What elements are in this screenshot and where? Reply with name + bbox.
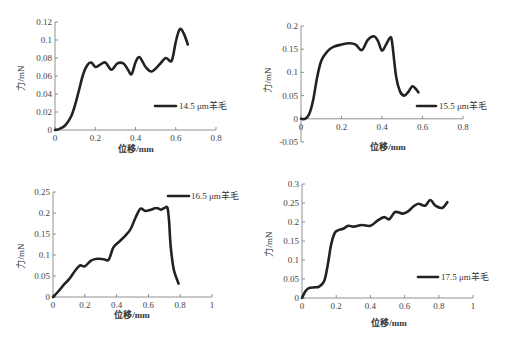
y-tick-label: 0.25: [283, 198, 299, 208]
x-tick-label: 1: [210, 300, 215, 310]
chart-br: 00.050.10.150.20.250.300.20.40.60.81 17.…: [263, 179, 489, 328]
x-tick-label: 0: [300, 301, 305, 311]
y-tick-label: 0.15: [282, 44, 298, 54]
x-tick-label: 0.2: [79, 300, 90, 310]
y-tick-label: 0.1: [41, 35, 52, 45]
y-tick-label: 0.1: [287, 67, 298, 77]
y-tick-label: 0.08: [36, 53, 52, 63]
y-tick-label: 0.05: [283, 274, 299, 284]
y-tick-label: 0.25: [34, 187, 50, 197]
chart-tr-ylabel: 力/mN: [262, 67, 273, 93]
x-tick-label: 0.2: [331, 301, 342, 311]
chart-tr: -0.0500.050.10.150.200.20.40.60.8 15.5 μ…: [262, 21, 487, 152]
y-tick-label: 0.05: [282, 91, 298, 101]
x-tick-label: 0.8: [457, 122, 469, 132]
y-tick-label: 0.05: [34, 271, 50, 281]
x-tick-label: 0: [299, 122, 304, 132]
y-tick-label: -0.05: [279, 137, 298, 147]
chart-tr-axes: -0.0500.050.10.150.200.20.40.60.8: [279, 21, 469, 147]
x-tick-label: 0.6: [143, 300, 155, 310]
chart-bl-legend-label: 16.5 μm羊毛: [191, 190, 239, 201]
chart-bl-axes: 00.050.10.150.20.2500.20.40.60.81: [34, 187, 214, 310]
y-tick-label: 0.2: [39, 208, 50, 218]
chart-bl-xlabel: 位移/mm: [114, 309, 150, 320]
x-tick-label: 0.6: [417, 122, 429, 132]
y-tick-label: 0: [46, 292, 51, 302]
x-tick-label: 0.6: [399, 301, 411, 311]
y-tick-label: 0: [294, 114, 299, 124]
chart-br-axes: 00.050.10.150.20.250.300.20.40.60.81: [283, 179, 475, 311]
chart-tr-xlabel: 位移/mm: [370, 141, 406, 152]
x-tick-label: 0.4: [111, 300, 123, 310]
x-tick-label: 0.4: [365, 301, 377, 311]
x-tick-label: 0: [53, 133, 58, 143]
y-tick-label: 0: [295, 293, 300, 303]
y-tick-label: 0.2: [288, 217, 299, 227]
chart-tr-curve: [301, 36, 418, 119]
y-tick-label: 0.1: [288, 255, 299, 265]
chart-tl-legend-label: 14.5 μm羊毛: [179, 100, 227, 111]
x-tick-label: 0.6: [170, 133, 182, 143]
y-tick-label: 0.3: [288, 179, 300, 189]
x-tick-label: 0.2: [90, 133, 101, 143]
chart-br-ylabel: 力/mN: [263, 231, 274, 257]
y-tick-label: 0.04: [36, 89, 52, 99]
chart-tl-axes: 00.020.040.060.080.10.1200.20.40.60.8: [36, 17, 222, 143]
chart-br-legend-label: 17.5 μm羊毛: [441, 271, 489, 282]
x-tick-label: 0.8: [433, 301, 445, 311]
chart-bl-curve: [53, 207, 179, 297]
chart-br-curve: [302, 200, 447, 298]
chart-tr-legend-label: 15.5 μm羊毛: [439, 100, 487, 111]
x-tick-label: 0.8: [175, 300, 187, 310]
y-tick-label: 0: [48, 125, 53, 135]
chart-tl-xlabel: 位移/mm: [118, 143, 154, 154]
y-tick-label: 0.1: [39, 250, 50, 260]
x-tick-label: 0.2: [336, 122, 347, 132]
chart-tl-curve: [55, 29, 188, 130]
x-tick-label: 0.4: [376, 122, 388, 132]
y-tick-label: 0.12: [36, 17, 52, 27]
y-tick-label: 0.2: [287, 21, 298, 31]
chart-tl-ylabel: 力/mN: [15, 65, 26, 91]
y-tick-label: 0.02: [36, 107, 52, 117]
x-tick-label: 0.4: [130, 133, 142, 143]
y-tick-label: 0.15: [34, 229, 50, 239]
x-tick-label: 0: [51, 300, 56, 310]
y-tick-label: 0.06: [36, 71, 52, 81]
x-tick-label: 1: [471, 301, 476, 311]
y-tick-label: 0.15: [283, 236, 299, 246]
figure-canvas: 00.020.040.060.080.10.1200.20.40.60.8 14…: [0, 0, 509, 344]
chart-bl: 00.050.10.150.20.2500.20.40.60.81 16.5 μ…: [15, 187, 239, 320]
chart-bl-ylabel: 力/mN: [15, 243, 26, 269]
x-tick-label: 0.8: [210, 133, 222, 143]
chart-tl: 00.020.040.060.080.10.1200.20.40.60.8 14…: [15, 17, 227, 154]
chart-br-xlabel: 位移/mm: [371, 317, 407, 328]
